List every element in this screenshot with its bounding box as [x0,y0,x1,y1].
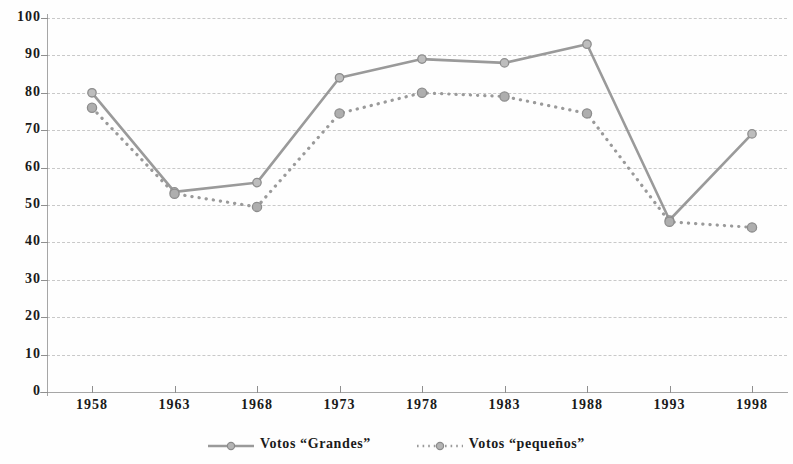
x-tick-label: 1988 [547,397,627,413]
y-tick-mark [41,392,48,393]
x-tick-label: 1983 [465,397,545,413]
grid-line [47,55,787,56]
grid-line [47,168,787,169]
x-tick-label: 1958 [52,397,132,413]
y-tick-label: 30 [0,271,41,287]
y-tick-mark [41,317,48,318]
legend-item-grandes[interactable]: Votos “Grandes” [208,436,371,452]
line-dotted-circle-marker-icon [417,438,463,450]
y-tick-label: 0 [0,383,41,399]
x-tick-mark [257,386,258,393]
y-tick-mark [41,242,48,243]
x-tick-mark [670,386,671,393]
chart-legend: Votos “Grandes” Votos “pequeños” [0,436,793,452]
y-tick-label: 10 [0,346,41,362]
legend-item-pequenos[interactable]: Votos “pequeños” [417,436,585,452]
x-tick-mark [92,386,93,393]
y-tick-label: 80 [0,84,41,100]
y-tick-label: 20 [0,308,41,324]
line-solid-circle-marker-icon [208,438,254,450]
y-tick-mark [41,55,48,56]
x-tick-mark [505,386,506,393]
grid-line [47,280,787,281]
plot-area [47,18,787,392]
grid-line [47,242,787,243]
y-tick-mark [41,18,48,19]
x-tick-mark [175,386,176,393]
y-tick-label: 90 [0,46,41,62]
line-chart-figure: 0102030405060708090100 19581963196819731… [0,0,793,464]
grid-line [47,93,787,94]
x-tick-label: 1968 [217,397,297,413]
y-tick-mark [41,280,48,281]
legend-label-grandes: Votos “Grandes” [260,436,371,452]
legend-label-pequenos: Votos “pequeños” [469,436,585,452]
y-tick-mark [41,205,48,206]
y-tick-label: 100 [0,9,41,25]
x-tick-label: 1993 [630,397,710,413]
x-tick-label: 1973 [300,397,380,413]
x-tick-mark [587,386,588,393]
x-tick-mark [422,386,423,393]
x-tick-label: 1998 [712,397,792,413]
x-tick-label: 1963 [135,397,215,413]
y-tick-label: 60 [0,159,41,175]
y-tick-label: 70 [0,121,41,137]
y-tick-label: 50 [0,196,41,212]
x-tick-label: 1978 [382,397,462,413]
y-tick-mark [41,168,48,169]
grid-line [47,317,787,318]
y-tick-label: 40 [0,233,41,249]
x-tick-mark [340,386,341,393]
y-tick-mark [41,93,48,94]
y-tick-mark [41,355,48,356]
grid-line [47,130,787,131]
grid-line [47,205,787,206]
x-tick-mark [752,386,753,393]
y-tick-mark [41,130,48,131]
grid-line [47,18,787,19]
x-axis-line [40,392,788,393]
grid-line [47,355,787,356]
